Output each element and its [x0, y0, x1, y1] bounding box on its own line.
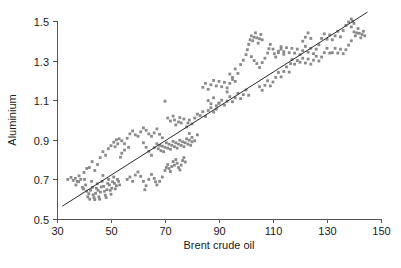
data-point — [342, 52, 345, 55]
data-point — [357, 27, 360, 30]
data-point — [309, 63, 312, 66]
data-point — [237, 72, 240, 75]
data-point — [184, 141, 187, 144]
data-point — [331, 38, 334, 41]
data-point — [137, 135, 140, 138]
data-point — [147, 178, 150, 181]
data-point — [112, 176, 115, 179]
data-point — [301, 40, 304, 43]
data-point — [307, 58, 310, 61]
data-point — [196, 113, 199, 116]
data-point — [188, 132, 191, 135]
data-point — [161, 145, 164, 148]
data-point — [251, 39, 254, 42]
data-point — [161, 176, 164, 179]
data-point — [70, 176, 73, 179]
data-point — [91, 160, 94, 163]
data-point — [257, 42, 260, 45]
data-point — [307, 31, 310, 34]
data-point — [234, 80, 237, 83]
data-point — [277, 50, 280, 53]
data-point — [247, 43, 250, 46]
data-point — [249, 38, 252, 41]
data-point — [106, 188, 109, 191]
data-point — [204, 82, 207, 85]
data-point — [355, 31, 358, 34]
data-point — [259, 33, 262, 36]
data-point — [293, 52, 296, 55]
data-point — [272, 48, 275, 51]
data-point — [334, 34, 337, 37]
data-point — [358, 32, 361, 35]
data-point — [143, 188, 146, 191]
data-point — [361, 33, 364, 36]
data-point — [126, 137, 129, 140]
data-point — [102, 185, 105, 188]
data-point — [103, 190, 106, 193]
data-point — [339, 35, 342, 38]
trend-line — [62, 12, 367, 206]
data-point — [123, 142, 126, 145]
data-point — [273, 52, 276, 55]
data-point — [282, 50, 285, 53]
data-point — [272, 81, 275, 84]
data-point — [116, 142, 119, 145]
data-point — [239, 97, 242, 100]
data-point — [170, 165, 173, 168]
data-point — [189, 144, 192, 147]
data-point — [142, 180, 145, 183]
data-point — [187, 143, 190, 146]
data-point — [120, 139, 123, 142]
data-point — [176, 147, 179, 150]
data-point — [274, 56, 277, 59]
data-point — [261, 61, 264, 64]
data-point — [158, 180, 161, 183]
data-point — [280, 45, 283, 48]
data-point — [268, 47, 271, 50]
data-point — [218, 80, 221, 83]
data-point — [129, 176, 132, 179]
data-point — [94, 192, 97, 195]
y-tick-label: 0.9 — [34, 135, 49, 147]
data-point — [181, 140, 184, 143]
data-point — [174, 124, 177, 127]
data-point — [350, 26, 353, 29]
x-tick-label: 130 — [318, 225, 336, 237]
y-tick-label: 0.7 — [34, 174, 49, 186]
data-point — [239, 63, 242, 66]
data-point — [97, 189, 100, 192]
data-point — [218, 102, 221, 105]
data-point — [345, 48, 348, 51]
data-point — [112, 141, 115, 144]
data-point — [90, 180, 93, 183]
data-point — [137, 170, 140, 173]
data-point — [172, 140, 175, 143]
data-point — [145, 184, 148, 187]
data-point — [127, 146, 130, 149]
data-point — [75, 184, 78, 187]
data-point — [131, 180, 134, 183]
data-point — [193, 139, 196, 142]
y-tick-labels: 0.50.70.91.11.31.5 — [34, 16, 49, 226]
data-point — [120, 152, 123, 155]
data-point — [142, 141, 145, 144]
data-point — [277, 71, 280, 74]
data-point — [160, 149, 163, 152]
data-point — [107, 147, 110, 150]
data-point — [231, 76, 234, 79]
data-point — [168, 143, 171, 146]
data-point — [92, 193, 95, 196]
data-point — [123, 149, 126, 152]
data-point — [145, 129, 148, 132]
data-point — [161, 136, 164, 139]
data-point — [223, 81, 226, 84]
data-point — [350, 39, 353, 42]
data-point — [178, 139, 181, 142]
data-point — [282, 53, 285, 56]
data-point — [169, 170, 172, 173]
data-point — [226, 90, 229, 93]
data-point — [253, 59, 256, 62]
data-point — [288, 51, 291, 54]
data-point — [326, 47, 329, 50]
data-point — [318, 60, 321, 63]
